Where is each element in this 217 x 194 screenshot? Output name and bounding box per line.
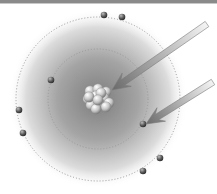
electron <box>101 12 108 19</box>
electron <box>157 155 164 162</box>
atom-illustration <box>0 0 217 194</box>
electron <box>20 130 27 137</box>
electron <box>140 168 147 175</box>
electron <box>16 107 23 114</box>
nucleon <box>91 104 101 114</box>
electron <box>48 77 55 84</box>
electron <box>140 121 147 128</box>
nucleon <box>101 102 111 112</box>
atom-diagram <box>0 0 217 194</box>
nucleon <box>93 95 103 105</box>
electron <box>119 14 126 21</box>
